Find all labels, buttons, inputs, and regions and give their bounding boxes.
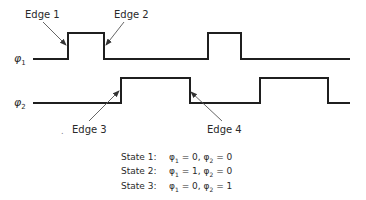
- edge-1-arrow-icon: [43, 22, 66, 45]
- edge-2-arrow-icon: [106, 22, 124, 45]
- state-name: State 1:: [121, 152, 169, 166]
- phi2-waveform: [33, 78, 350, 103]
- timing-diagram: φ1 φ2 Edge 1 Edge 2 Edge 3 Edge 4 . Stat…: [0, 0, 366, 200]
- phi1-waveform: [33, 33, 350, 59]
- state-row-3: State 3: φ1 = 0, φ2 = 1: [121, 181, 232, 195]
- phi2-label: φ2: [14, 97, 26, 113]
- state-values: φ1 = 1, φ2 = 0: [169, 166, 232, 180]
- edge-2-label: Edge 2: [114, 9, 149, 21]
- state-name: State 3:: [121, 181, 169, 195]
- edge-4-arrow-icon: [191, 92, 222, 121]
- stray-dot: .: [61, 127, 64, 136]
- phi1-subscript: 1: [21, 59, 25, 67]
- state-values: φ1 = 0, φ2 = 0: [169, 152, 232, 166]
- edge-3-arrow-icon: [89, 91, 119, 121]
- state-table: State 1: φ1 = 0, φ2 = 0 State 2: φ1 = 1,…: [121, 152, 232, 195]
- edge-3-label: Edge 3: [72, 124, 107, 136]
- phi1-label: φ1: [14, 53, 26, 69]
- edge-4-label: Edge 4: [207, 124, 242, 136]
- edge-arrows: [43, 22, 222, 121]
- state-values: φ1 = 0, φ2 = 1: [169, 181, 232, 195]
- edge-1-label: Edge 1: [25, 9, 60, 21]
- state-row-1: State 1: φ1 = 0, φ2 = 0: [121, 152, 232, 166]
- state-name: State 2:: [121, 166, 169, 180]
- state-row-2: State 2: φ1 = 1, φ2 = 0: [121, 166, 232, 180]
- phi2-subscript: 2: [21, 103, 25, 111]
